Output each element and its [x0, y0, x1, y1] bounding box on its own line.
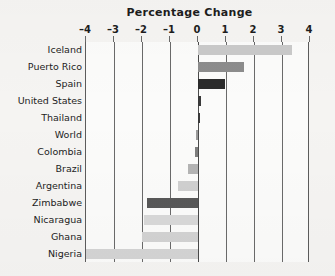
category-label-argentina: Argentina	[36, 181, 82, 191]
x-tick-mark-4	[309, 36, 310, 42]
x-tick-label--2: –2	[135, 24, 147, 35]
x-tick-label-4: 4	[306, 24, 313, 35]
gridline-3	[282, 42, 283, 262]
bar-ghana	[142, 232, 198, 242]
category-label-zimbabwe: Zimbabwe	[32, 198, 82, 208]
category-label-iceland: Iceland	[48, 45, 82, 55]
bar-thailand	[198, 113, 200, 123]
plot-area	[85, 42, 309, 262]
category-label-united-states: United States	[18, 96, 82, 106]
x-tick-label-0: 0	[194, 24, 201, 35]
category-label-ghana: Ghana	[51, 232, 82, 242]
chart-title: Percentage Change	[0, 6, 335, 19]
bar-nigeria	[86, 249, 198, 259]
gridline-0	[198, 42, 199, 262]
category-label-colombia: Colombia	[37, 147, 82, 157]
x-tick-label-3: 3	[278, 24, 285, 35]
gridline--3	[114, 42, 115, 262]
bar-iceland	[198, 45, 292, 55]
category-label-brazil: Brazil	[55, 164, 82, 174]
category-label-thailand: Thailand	[41, 113, 82, 123]
category-label-world: World	[55, 130, 82, 140]
bar-argentina	[178, 181, 198, 191]
bar-brazil	[188, 164, 198, 174]
x-tick-label--3: –3	[107, 24, 119, 35]
x-tick-label--1: –1	[163, 24, 175, 35]
bar-puerto-rico	[198, 62, 244, 72]
category-label-nicaragua: Nicaragua	[34, 215, 82, 225]
x-tick-label-1: 1	[222, 24, 229, 35]
x-tick-label--4: –4	[79, 24, 91, 35]
bar-nicaragua	[144, 215, 198, 225]
category-label-nigeria: Nigeria	[48, 249, 82, 259]
chart-title-text: Percentage Change	[126, 6, 252, 19]
chart-page: Percentage Change –4–3–2–101234 IcelandP…	[0, 0, 335, 276]
gridline--2	[142, 42, 143, 262]
category-label-puerto-rico: Puerto Rico	[28, 62, 82, 72]
bar-world	[196, 130, 198, 140]
gridline--1	[170, 42, 171, 262]
category-label-spain: Spain	[55, 79, 82, 89]
bar-spain	[198, 79, 225, 89]
x-tick-label-2: 2	[250, 24, 257, 35]
bar-united-states	[198, 96, 201, 106]
gridline-2	[254, 42, 255, 262]
gridline-1	[226, 42, 227, 262]
bar-zimbabwe	[147, 198, 198, 208]
bar-colombia	[195, 147, 198, 157]
